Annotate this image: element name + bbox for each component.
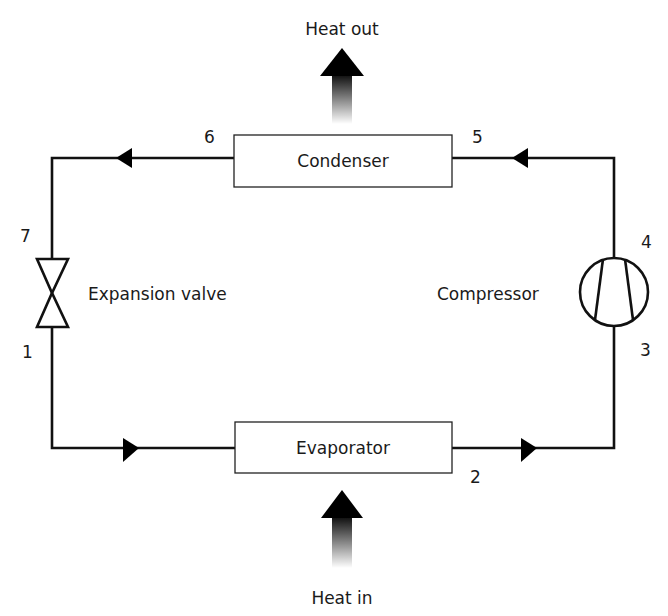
- heat-in-arrow: [321, 490, 363, 568]
- condenser: Condenser: [234, 135, 452, 187]
- state-point-2: 2: [470, 467, 481, 487]
- heat-in-arrow-shaft: [332, 514, 352, 568]
- compressor-icon: [580, 258, 648, 326]
- valve-lower-triangle: [37, 293, 68, 327]
- state-point-7: 7: [20, 226, 31, 246]
- heat-out-arrow: [320, 48, 364, 124]
- line-evaporator-to-compressor: [452, 326, 614, 448]
- state-point-6: 6: [204, 127, 215, 147]
- heat-out-arrow-shaft: [332, 72, 352, 124]
- condenser-label: Condenser: [297, 151, 388, 171]
- flow-arrow-right-icon: [521, 438, 537, 462]
- state-point-5: 5: [472, 127, 483, 147]
- state-point-1: 1: [22, 342, 33, 362]
- evaporator: Evaporator: [235, 422, 452, 473]
- expansion-valve-label: Expansion valve: [88, 284, 227, 304]
- evaporator-label: Evaporator: [296, 438, 390, 458]
- flow-arrow-left-icon: [116, 148, 132, 168]
- valve-upper-triangle: [37, 259, 68, 293]
- line-valve-to-evaporator: [52, 327, 235, 448]
- compressor-circle: [580, 258, 648, 326]
- flow-arrow-right-icon: [123, 438, 139, 462]
- heat-in-label: Heat in: [311, 588, 372, 608]
- line-compressor-to-condenser: [452, 158, 614, 258]
- line-condenser-to-valve: [52, 158, 234, 259]
- heat-in-arrow-head: [321, 490, 363, 518]
- state-point-4: 4: [641, 232, 652, 252]
- state-point-3: 3: [640, 340, 651, 360]
- flow-arrow-left-icon: [512, 148, 528, 168]
- compressor-label: Compressor: [437, 284, 539, 304]
- heat-out-label: Heat out: [305, 19, 379, 39]
- expansion-valve-icon: [37, 259, 68, 327]
- heat-out-arrow-head: [320, 48, 364, 76]
- refrigeration-cycle-diagram: Heat out Condenser Evaporator Expansion …: [0, 0, 668, 616]
